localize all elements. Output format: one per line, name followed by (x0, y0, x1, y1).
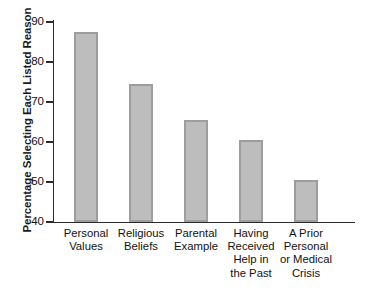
y-tick-label: 40 (0, 216, 44, 228)
bar (239, 140, 263, 222)
bar (184, 120, 208, 222)
y-axis-line (53, 20, 54, 223)
y-axis-title: Percentage Selecting Each Listed Reason (18, 4, 36, 236)
bar (129, 84, 153, 222)
y-tick-mark (46, 221, 53, 222)
bar (74, 32, 98, 222)
x-axis-label: A PriorPersonalor MedicalCrisis (269, 227, 343, 280)
y-tick-label: 90 (0, 16, 44, 28)
y-tick-mark (46, 61, 53, 62)
y-tick-label: 50 (0, 176, 44, 188)
y-tick-mark (46, 181, 53, 182)
y-tick-label: 70 (0, 96, 44, 108)
x-axis-label-line: Personal (269, 240, 343, 253)
bar-chart: Percentage Selecting Each Listed Reason … (0, 0, 369, 296)
y-tick-label: 80 (0, 56, 44, 68)
y-tick-mark (46, 21, 53, 22)
x-axis-label-line: Crisis (269, 267, 343, 280)
y-tick-label: 60 (0, 136, 44, 148)
y-tick-mark (46, 101, 53, 102)
x-axis-label-line: A Prior (269, 227, 343, 240)
x-axis-label-line: or Medical (269, 253, 343, 266)
y-tick-mark (46, 141, 53, 142)
bar (294, 180, 318, 222)
